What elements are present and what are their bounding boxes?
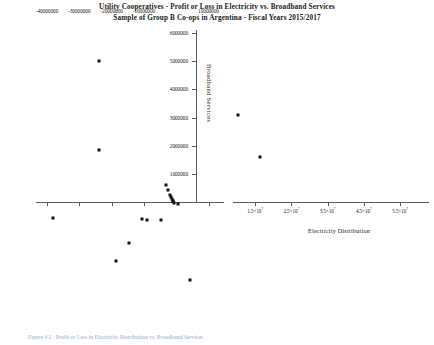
- y-axis-tick-label: 1000000: [170, 171, 188, 177]
- data-point: [97, 149, 100, 152]
- x-axis-secondary-tick: [400, 202, 401, 206]
- y-axis-tick-label: 2000000: [170, 143, 188, 149]
- x-axis-secondary-tick-label: 5.5×107: [392, 207, 408, 214]
- scatter-plot-figure: Utility Cooperatives - Profit or Loss in…: [0, 0, 434, 345]
- chart-title-line-2: Sample of Group B Co-ops in Argentina - …: [0, 13, 434, 24]
- data-point: [236, 113, 239, 116]
- data-point: [128, 242, 131, 245]
- data-point: [160, 219, 163, 222]
- y-axis-tick-label: 4000000: [170, 86, 188, 92]
- y-axis-line: [196, 30, 197, 202]
- data-point: [115, 260, 118, 263]
- data-point: [177, 202, 180, 205]
- data-point: [97, 60, 100, 63]
- x-axis-tick: [209, 202, 210, 206]
- x-axis-tick: [112, 202, 113, 206]
- y-axis-tick: [192, 146, 196, 147]
- y-axis-title: Broadband Services: [206, 64, 213, 122]
- x-axis-title: Electricity Distribution: [308, 227, 370, 234]
- data-point: [146, 218, 149, 221]
- plot-area: 1000000200000030000004000000500000060000…: [0, 24, 434, 324]
- x-axis-tick-label: -40000000: [36, 8, 58, 14]
- y-axis-tick: [192, 89, 196, 90]
- y-axis-tick-label: 5000000: [170, 58, 188, 64]
- x-axis-tick-label: -20000000: [100, 8, 122, 14]
- x-axis-tick-label: -10000000: [133, 8, 155, 14]
- data-point: [164, 184, 167, 187]
- x-axis-tick: [144, 202, 145, 206]
- y-axis-tick-label: 6000000: [170, 30, 188, 36]
- y-axis-tick: [192, 33, 196, 34]
- x-axis-tick: [79, 202, 80, 206]
- x-axis-tick: [47, 202, 48, 206]
- x-axis-tick-label: -30000000: [68, 8, 90, 14]
- figure-caption-text: Figure 4.2 - Profit or Loss in Electrici…: [28, 333, 420, 341]
- data-point: [259, 155, 262, 158]
- x-axis-secondary-tick-label: 4.5×107: [356, 207, 372, 214]
- x-axis-secondary-tick: [291, 202, 292, 206]
- x-axis-primary-line: [36, 202, 224, 203]
- data-point: [172, 202, 175, 205]
- y-axis-tick: [192, 61, 196, 62]
- x-axis-secondary-tick: [364, 202, 365, 206]
- x-axis-secondary-tick-label: 3.5×107: [320, 207, 336, 214]
- data-point: [189, 278, 192, 281]
- data-point: [141, 218, 144, 221]
- y-axis-tick-label: 3000000: [170, 115, 188, 121]
- data-point: [52, 216, 55, 219]
- y-axis-tick: [192, 174, 196, 175]
- x-axis-tick-label: 10000000: [198, 8, 219, 14]
- figure-caption: Figure 4.2 - Profit or Loss in Electrici…: [0, 333, 434, 345]
- x-axis-secondary-tick: [328, 202, 329, 206]
- x-axis-secondary-tick-label: 1.5×107: [247, 207, 263, 214]
- data-point: [167, 189, 170, 192]
- y-axis-tick: [192, 118, 196, 119]
- x-axis-secondary-tick-label: 2.5×107: [283, 207, 299, 214]
- x-axis-secondary-tick: [255, 202, 256, 206]
